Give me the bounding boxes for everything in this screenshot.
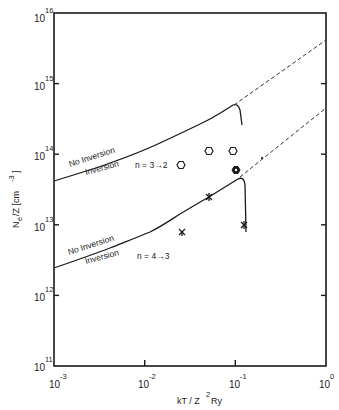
y-tick-15: 10 xyxy=(34,81,46,92)
marker-open-hexagon xyxy=(229,148,237,155)
y-tick-labels: 10 16 10 15 10 14 10 13 10 12 10 11 xyxy=(34,6,53,373)
chart-canvas: 10 16 10 15 10 14 10 13 10 12 10 11 10 -… xyxy=(0,0,339,410)
y-axis-label: N e /Z [cm -3 ] xyxy=(7,170,24,228)
marker-asterisk xyxy=(179,229,185,236)
y-tick-11: 10 xyxy=(34,362,46,373)
svg-text:e: e xyxy=(15,217,24,221)
svg-text:14: 14 xyxy=(45,144,53,153)
svg-text:kT / Z: kT / Z xyxy=(177,396,200,406)
x-axis-label: kT / Z 2 Ry xyxy=(177,390,222,406)
svg-text:2: 2 xyxy=(206,390,210,399)
y-tick-14: 10 xyxy=(34,151,46,162)
marker-filled-hexagon xyxy=(232,167,240,174)
annotation-n4-3: n = 4→3 xyxy=(137,251,170,261)
marker-open-hexagon xyxy=(205,148,213,155)
curve-n4-3-dashed xyxy=(240,108,326,177)
dashed-dot xyxy=(261,157,263,159)
svg-text:-1: -1 xyxy=(240,372,247,381)
y-tick-16: 10 xyxy=(34,13,46,24)
marker-asterisk xyxy=(206,193,212,201)
curve-n3-2-dashed xyxy=(234,40,326,105)
y-tick-13: 10 xyxy=(34,222,46,233)
svg-text:-2: -2 xyxy=(149,372,156,381)
plot-frame xyxy=(54,13,326,366)
y-tick-12: 10 xyxy=(34,292,46,303)
x-tick-labels: 10 -3 10 -2 10 -1 10 0 xyxy=(49,372,334,390)
svg-text:15: 15 xyxy=(45,74,53,83)
x-tick-minus3: 10 xyxy=(49,379,61,390)
x-tick-minus1: 10 xyxy=(229,379,241,390)
svg-text:]: ] xyxy=(11,170,21,173)
svg-text:/Z [cm: /Z [cm xyxy=(11,191,21,216)
svg-text:0: 0 xyxy=(330,372,334,381)
svg-text:13: 13 xyxy=(45,215,53,224)
svg-text:-3: -3 xyxy=(7,175,16,182)
x-tick-minus2: 10 xyxy=(138,379,150,390)
svg-text:Ry: Ry xyxy=(211,396,222,406)
annotation-n3-2: n = 3→2 xyxy=(135,160,168,170)
x-ticks xyxy=(145,360,236,366)
svg-text:12: 12 xyxy=(45,285,53,294)
svg-text:11: 11 xyxy=(45,355,53,364)
svg-text:-3: -3 xyxy=(60,372,67,381)
marker-open-hexagon xyxy=(177,162,185,169)
svg-text:16: 16 xyxy=(45,6,53,15)
svg-text:N: N xyxy=(11,222,21,229)
x-tick-0: 10 xyxy=(319,379,331,390)
